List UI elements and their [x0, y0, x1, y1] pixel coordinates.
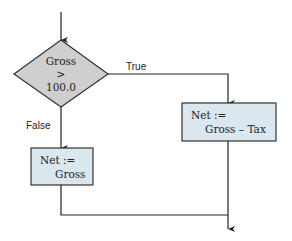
true-branch-connector — [108, 74, 228, 103]
flowchart: Gross > 100.0 True False Net := Gross – … — [0, 0, 292, 241]
decision-line-1: Gross — [46, 55, 77, 67]
false-box-line-1: Net := — [40, 154, 75, 166]
true-label: True — [126, 61, 147, 72]
decision-node: Gross > 100.0 — [14, 40, 108, 107]
false-box-line-2: Gross — [55, 168, 86, 180]
false-label: False — [26, 120, 51, 131]
true-box-line-1: Net := — [191, 109, 226, 121]
true-process-box: Net := Gross – Tax — [182, 103, 276, 141]
decision-line-3: 100.0 — [46, 81, 76, 93]
false-merge-connector — [61, 185, 228, 215]
decision-line-2: > — [57, 68, 66, 80]
false-process-box: Net := Gross — [31, 148, 93, 185]
true-box-line-2: Gross – Tax — [205, 123, 266, 135]
